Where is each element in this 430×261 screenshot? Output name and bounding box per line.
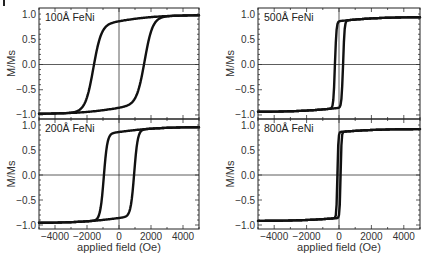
y-tick-label: −0.5 xyxy=(16,195,36,206)
x-tick-label: −4000 xyxy=(41,231,70,242)
y-tick-label: 1.0 xyxy=(22,9,36,20)
x-tick-label: 4000 xyxy=(393,231,416,242)
y-axis-title: M/Ms xyxy=(5,50,17,77)
y-tick-label: 0.5 xyxy=(241,145,255,156)
y-tick-label: −0.5 xyxy=(235,195,255,206)
y-tick-label: −1.0 xyxy=(16,220,36,231)
y-tick-label: 0.0 xyxy=(22,170,36,181)
y-tick-label: 0.0 xyxy=(241,59,255,70)
y-tick-label: 0.5 xyxy=(22,34,36,45)
y-axis-title: M/Ms xyxy=(224,50,236,77)
panel-label: 500Å FeNi xyxy=(264,11,314,23)
panel-200A-FeNi: 1.00.50.0−0.5−1.0M/Ms−4000−2000020004000… xyxy=(5,119,199,253)
y-tick-label: 0.0 xyxy=(22,59,36,70)
y-axis-title: M/Ms xyxy=(224,160,236,187)
x-tick-label: 4000 xyxy=(172,231,195,242)
y-tick-label: 1.0 xyxy=(241,120,255,131)
y-tick-label: 0.5 xyxy=(22,145,36,156)
y-tick-label: 0.0 xyxy=(241,170,255,181)
x-axis-title: applied field (Oe) xyxy=(77,241,161,253)
panel-label: 800Å FeNi xyxy=(264,122,314,134)
panel-label: 200Å FeNi xyxy=(45,122,95,134)
y-axis-title: M/Ms xyxy=(5,160,17,187)
panel-500A-FeNi: 1.00.50.0−0.5−1.0M/Ms500Å FeNi xyxy=(224,8,420,120)
y-tick-label: 0.5 xyxy=(241,34,255,45)
x-tick-label: −4000 xyxy=(260,231,289,242)
panel-100A-FeNi: 1.00.50.0−0.5−1.0M/Ms100Å FeNi xyxy=(5,8,199,120)
panel-800A-FeNi: 1.00.50.0−0.5−1.0M/Ms−4000−2000020004000… xyxy=(224,119,420,253)
panel-label: 100Å FeNi xyxy=(45,11,95,23)
y-tick-label: −0.5 xyxy=(235,84,255,95)
x-axis-title: applied field (Oe) xyxy=(297,241,381,253)
y-tick-label: −1.0 xyxy=(235,220,255,231)
y-tick-label: −0.5 xyxy=(16,84,36,95)
y-tick-label: 1.0 xyxy=(22,120,36,131)
y-tick-label: 1.0 xyxy=(241,9,255,20)
hysteresis-figure: 1.00.50.0−0.5−1.0M/Ms100Å FeNi 1.00.50.0… xyxy=(0,0,430,261)
